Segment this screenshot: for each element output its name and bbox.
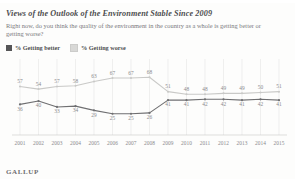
x-axis-tick-label: 2005 (89, 140, 100, 146)
x-axis-tick-label: 2002 (33, 140, 44, 146)
data-label: 26 (147, 114, 153, 120)
data-label: 68 (147, 69, 153, 75)
data-point (56, 85, 58, 87)
data-label: 40 (36, 102, 42, 108)
x-axis-tick-label: 2004 (70, 140, 81, 146)
legend-swatch-getting-better (6, 45, 12, 51)
data-point (241, 92, 243, 94)
data-label: 48 (202, 86, 208, 92)
data-point (38, 88, 40, 90)
data-label: 54 (36, 81, 42, 87)
data-label: 48 (184, 86, 190, 92)
data-label: 41 (165, 101, 171, 107)
data-label: 67 (110, 70, 116, 76)
data-label: 51 (276, 83, 282, 89)
data-label: 29 (91, 111, 97, 117)
data-point (149, 76, 151, 78)
x-axis-tick-label: 2007 (126, 140, 137, 146)
data-label: 41 (184, 101, 190, 107)
data-label: 41 (276, 101, 282, 107)
data-point (93, 80, 95, 82)
x-axis-tick-label: 2015 (274, 140, 285, 146)
data-label: 33 (54, 108, 60, 114)
x-axis-tick-label: 2013 (237, 140, 248, 146)
data-label: 25 (128, 115, 134, 121)
x-axis-tick-label: 2014 (255, 140, 266, 146)
gallup-logo: GALLUP (6, 168, 39, 176)
legend-label-getting-better: % Getting better (15, 44, 60, 51)
data-point (260, 91, 262, 93)
data-label: 57 (54, 78, 60, 84)
data-label: 42 (202, 100, 208, 106)
data-point (186, 93, 188, 95)
data-point (167, 90, 169, 92)
gallup-chart-page: Views of the Outlook of the Environment … (0, 0, 295, 179)
data-label: 41 (239, 101, 245, 107)
data-point (204, 93, 206, 95)
data-point (130, 77, 132, 79)
x-axis-tick-label: 2012 (218, 140, 229, 146)
data-label: 63 (91, 73, 97, 79)
data-label: 36 (17, 105, 23, 111)
legend-item-getting-worse: % Getting worse (70, 44, 126, 52)
data-label: 49 (221, 85, 227, 91)
legend-swatch-getting-worse (70, 44, 78, 52)
x-axis-tick-label: 2011 (200, 140, 211, 146)
data-point (278, 90, 280, 92)
x-axis-tick-label: 2010 (181, 140, 192, 146)
x-axis-tick-label: 2009 (163, 140, 174, 146)
data-label: 42 (221, 100, 227, 106)
data-point (75, 85, 77, 87)
data-point (223, 92, 225, 94)
chart-subtitle: Right now, do you think the quality of t… (6, 22, 278, 39)
chart-canvas: 5754575863676768514848494950513640333429… (6, 55, 289, 151)
top-divider (0, 0, 295, 3)
data-label: 42 (258, 100, 264, 106)
data-label: 34 (73, 107, 79, 113)
legend-item-getting-better: % Getting better (6, 44, 60, 51)
x-axis-tick-label: 2003 (52, 140, 63, 146)
line-chart: 5754575863676768514848494950513640333429… (6, 55, 289, 151)
data-label: 58 (73, 77, 79, 83)
data-label: 50 (258, 84, 264, 90)
data-label: 57 (17, 78, 23, 84)
data-label: 51 (165, 83, 171, 89)
x-axis-tick-label: 2006 (107, 140, 118, 146)
x-axis-tick-label: 2001 (15, 140, 26, 146)
data-point (19, 85, 21, 87)
data-label: 67 (128, 70, 134, 76)
legend-label-getting-worse: % Getting worse (81, 44, 126, 51)
data-point (112, 77, 114, 79)
data-label: 25 (110, 115, 116, 121)
chart-legend: % Getting better % Getting worse (6, 44, 289, 52)
data-label: 49 (239, 85, 245, 91)
x-axis-tick-label: 2008 (144, 140, 155, 146)
